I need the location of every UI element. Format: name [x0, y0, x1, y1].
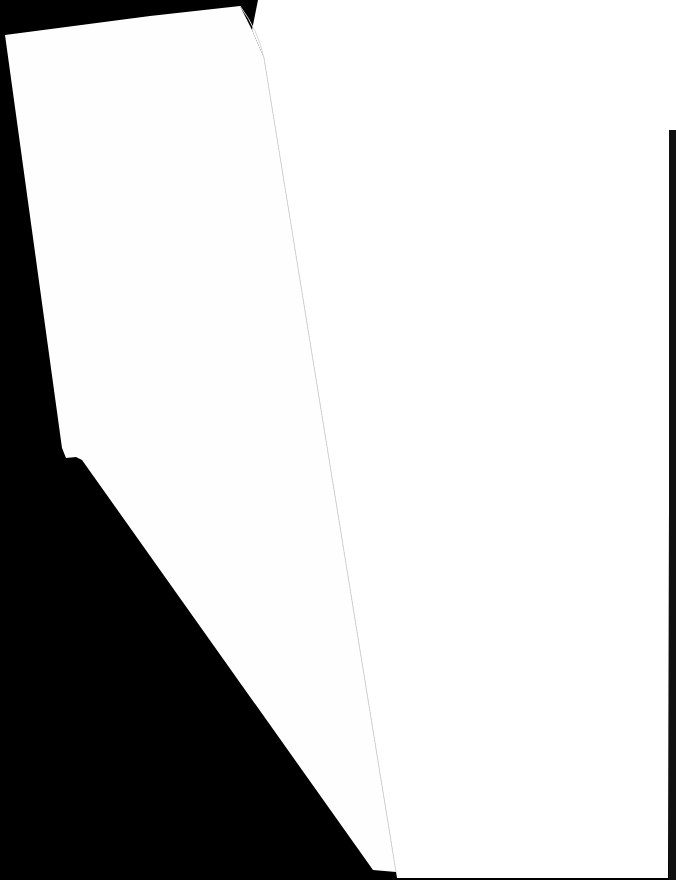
right-edge-shadow: [669, 130, 676, 880]
